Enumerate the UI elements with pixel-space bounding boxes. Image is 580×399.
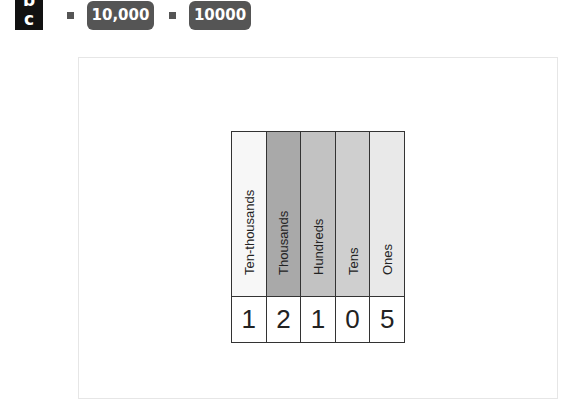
bullet-square-icon xyxy=(169,12,176,19)
column-digit: 1 xyxy=(301,297,335,342)
column-label: Tens xyxy=(345,248,360,275)
column-label: Ones xyxy=(380,244,395,275)
column-thousands: Thousands 2 xyxy=(267,132,302,342)
bullet-square-icon xyxy=(67,12,74,19)
column-header: Tens xyxy=(336,132,370,297)
column-header: Ten-thousands xyxy=(232,132,266,297)
question-label: b c xyxy=(15,0,43,30)
column-hundreds: Hundreds 1 xyxy=(301,132,336,342)
column-digit: 5 xyxy=(370,297,404,342)
column-digit: 2 xyxy=(267,297,301,342)
column-digit: 1 xyxy=(232,297,266,342)
column-digit: 0 xyxy=(336,297,370,342)
answer-pill-plain: 10000 xyxy=(189,1,251,30)
label-letter-c: c xyxy=(15,10,43,29)
answer-pill-comma: 10,000 xyxy=(87,1,154,30)
place-value-chart: Ten-thousands 1 Thousands 2 Hundreds 1 T… xyxy=(231,131,405,343)
column-label: Ten-thousands xyxy=(241,190,256,275)
column-label: Thousands xyxy=(276,211,291,275)
column-ones: Ones 5 xyxy=(370,132,404,342)
column-tens: Tens 0 xyxy=(336,132,371,342)
column-header: Thousands xyxy=(267,132,301,297)
column-header: Hundreds xyxy=(301,132,335,297)
column-header: Ones xyxy=(370,132,404,297)
column-ten-thousands: Ten-thousands 1 xyxy=(232,132,267,342)
column-label: Hundreds xyxy=(310,219,325,275)
